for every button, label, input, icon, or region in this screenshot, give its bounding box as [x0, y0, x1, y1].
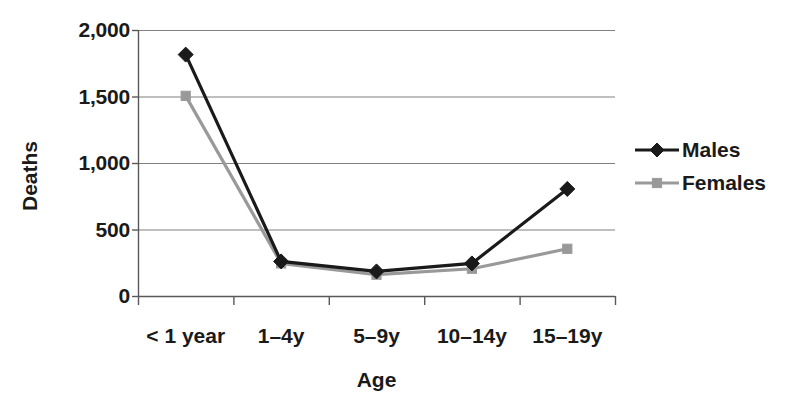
legend-entry-females[interactable]: Females	[634, 166, 794, 199]
x-axis-tick-label: < 1 year	[138, 325, 233, 355]
x-axis-title: Age	[138, 368, 615, 392]
y-axis-tick-label: 2,000	[22, 19, 130, 40]
series-males	[178, 47, 575, 279]
chart-legend: MalesFemales	[634, 133, 794, 199]
data-series-layer	[138, 30, 615, 296]
series-line	[186, 96, 568, 275]
data-point-marker	[369, 264, 384, 279]
y-axis-tick-label: 0	[22, 285, 130, 306]
x-axis-tick-label: 1–4y	[233, 325, 328, 355]
data-point-marker	[178, 47, 193, 62]
x-axis-tick-label: 15–19y	[520, 325, 615, 355]
data-point-marker	[563, 244, 572, 253]
y-axis-tick-label: 500	[22, 219, 130, 240]
y-axis-tick-label: 1,000	[22, 152, 130, 173]
series-females	[181, 91, 572, 279]
legend-label: Males	[682, 139, 740, 160]
series-line	[186, 55, 568, 272]
x-axis-tick-label: 5–9y	[329, 325, 424, 355]
legend-marker-diamond-icon	[634, 140, 680, 160]
y-axis-tick-labels: 05001,0001,5002,000	[22, 0, 130, 413]
plot-area	[138, 30, 615, 296]
legend-marker-square-icon	[634, 173, 680, 193]
x-axis-tick-label: 10–14y	[424, 325, 519, 355]
deaths-by-age-line-chart: Deaths 05001,0001,5002,000 < 1 year1–4y5…	[0, 0, 799, 413]
legend-label: Females	[682, 172, 766, 193]
y-axis-tick-label: 1,500	[22, 86, 130, 107]
x-axis-tick-labels: < 1 year1–4y5–9y10–14y15–19y	[138, 325, 615, 355]
legend-entry-males[interactable]: Males	[634, 133, 794, 166]
data-point-marker	[181, 91, 190, 100]
